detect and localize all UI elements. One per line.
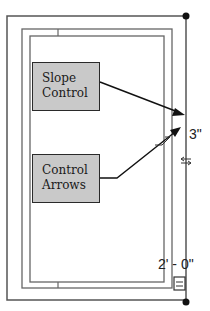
slope-control-line2: Control: [42, 86, 99, 101]
right-offset-dimension: 3": [189, 126, 202, 142]
bottom-square-symbol: [174, 277, 185, 290]
slope-arrowhead-icon: [172, 108, 185, 116]
control-arrows-callout: Control Arrows: [32, 154, 100, 203]
control-arrows-line1: Control: [42, 163, 99, 178]
slope-control-line1: Slope: [42, 71, 99, 86]
bottom-width-dimension: 2' - 0": [158, 256, 194, 272]
slope-control-callout: Slope Control: [32, 62, 100, 111]
control-arrows-line2: Arrows: [42, 178, 99, 193]
bottom-endpoint-dot: [183, 299, 190, 306]
top-endpoint-dot: [183, 13, 190, 20]
slope-leader-line: [100, 82, 178, 112]
